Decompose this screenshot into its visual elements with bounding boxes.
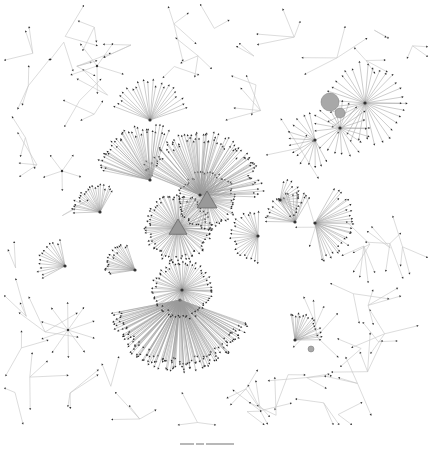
figure-caption: [180, 433, 252, 437]
tr-blob-small-node: [335, 108, 345, 118]
star-subgraphs: [41, 43, 123, 358]
dense-clusters: [37, 61, 408, 373]
caption-text-segment: [196, 443, 204, 445]
caption-text-segment: [180, 443, 194, 445]
tr-blob-large-node: [321, 93, 339, 111]
small-blob-right-node: [308, 346, 314, 352]
peripheral-trees: [4, 4, 428, 426]
caption-text-segment: [206, 443, 234, 445]
network-graph-canvas: [0, 0, 432, 449]
